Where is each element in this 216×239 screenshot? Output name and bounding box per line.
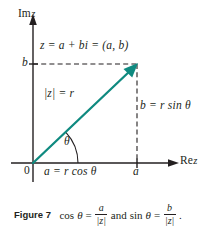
z-vector bbox=[33, 63, 138, 163]
fraction-2-numerator: b bbox=[166, 203, 173, 214]
imaginary-axis bbox=[29, 14, 37, 182]
figure-caption: Figure 7 cos θ = a |z| and sin θ = b |z|… bbox=[0, 190, 216, 239]
point-equation-label: z = a + bi = (a, b) bbox=[40, 40, 128, 52]
angle-label-theta: θ bbox=[64, 136, 70, 148]
y-tick-label-b: b bbox=[22, 57, 28, 69]
theta-token-1: θ bbox=[77, 209, 82, 221]
modulus-label: |z| = r bbox=[44, 88, 74, 100]
fraction-1-numerator: a bbox=[98, 203, 105, 214]
sin-token: sin bbox=[130, 209, 143, 221]
real-part-label: a = r cos θ bbox=[44, 166, 97, 178]
fraction-b-over-abs-z: b |z| bbox=[164, 203, 176, 226]
figure-number-label: Figure 7 bbox=[14, 209, 51, 220]
theta-token-2: θ bbox=[145, 209, 150, 221]
period-token: . bbox=[179, 209, 182, 221]
x-tick-label-a: a bbox=[133, 166, 139, 178]
cos-token: cos bbox=[59, 209, 74, 221]
figure-caption-body: cos θ = a |z| and sin θ = b |z| . bbox=[58, 203, 183, 226]
fraction-a-over-abs-z: a |z| bbox=[95, 203, 107, 226]
real-axis-label: Rez bbox=[180, 155, 197, 167]
plot-area: Imz Rez b a 0 z = a + bi = (a, b) |z| = … bbox=[0, 0, 216, 185]
fraction-2-denominator: |z| bbox=[164, 216, 175, 227]
imaginary-axis-label: Imz bbox=[18, 8, 35, 20]
figure-7-complex-plane: Imz Rez b a 0 z = a + bi = (a, b) |z| = … bbox=[0, 0, 216, 239]
imaginary-part-label: b = r sin θ bbox=[140, 100, 191, 112]
fraction-1-denominator: |z| bbox=[96, 216, 107, 227]
equals-token-1: = bbox=[86, 209, 92, 221]
equals-token-2: = bbox=[154, 209, 160, 221]
origin-label: 0 bbox=[24, 165, 30, 177]
and-token: and bbox=[111, 209, 127, 221]
